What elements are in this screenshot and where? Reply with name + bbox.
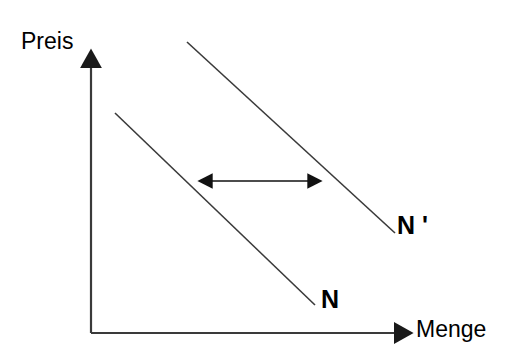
- demand-curve-n: [115, 113, 315, 305]
- demand-curve-label-n: N: [321, 287, 339, 312]
- y-axis-label: Preis: [21, 30, 73, 53]
- demand-curve-n-prime: [187, 42, 395, 233]
- demand-curve-label-n-prime: N ': [397, 213, 428, 238]
- figure-canvas: [0, 0, 505, 354]
- x-axis-label: Menge: [416, 318, 486, 341]
- demand-curve-figure: Preis Menge N N ': [0, 0, 505, 354]
